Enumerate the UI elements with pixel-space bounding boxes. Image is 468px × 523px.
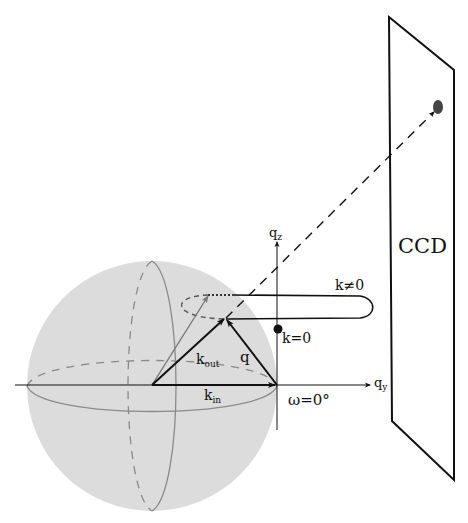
diagram-canvas bbox=[0, 0, 468, 523]
qy-axis-label: qy bbox=[374, 376, 387, 392]
k-out-sub: out bbox=[204, 359, 219, 369]
k-nonzero-label: k≠0 bbox=[335, 278, 364, 292]
omega-label: ω=0° bbox=[288, 393, 330, 408]
diffraction-spot bbox=[433, 100, 443, 114]
k-in-sub: in bbox=[212, 395, 221, 405]
qy-sub: y bbox=[382, 382, 387, 392]
ccd-label: CCD bbox=[398, 236, 447, 257]
diffracted-beam-dashed bbox=[226, 112, 434, 318]
scattering-diagram: CCD qz qy k≠0 k=0 ω=0° kout q kin bbox=[0, 0, 468, 523]
qz-axis-label: qz bbox=[269, 226, 282, 242]
k-zero-label: k=0 bbox=[282, 331, 311, 345]
q-label: q bbox=[240, 350, 250, 365]
qz-sub: z bbox=[277, 232, 282, 242]
k-in-label: kin bbox=[204, 388, 221, 405]
k-out-label: kout bbox=[196, 352, 219, 369]
